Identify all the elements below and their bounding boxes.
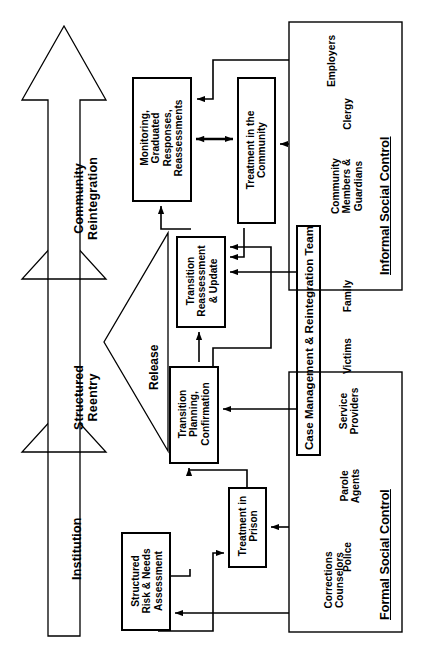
actor-label-service-providers: Service Providers xyxy=(338,380,361,442)
diagram-canvas: Treatment in the Community (double arrow… xyxy=(0,0,422,653)
actor-label-victims: Victims xyxy=(342,332,353,380)
link-treatmentprison-to-planning xyxy=(189,468,247,487)
actor-label-community-members-guardians: Community Members & Guardians xyxy=(330,145,364,227)
actor-label-family: Family xyxy=(342,274,353,318)
stage-label-structured-reentry: Structured Reentry xyxy=(72,365,100,430)
release-arrow xyxy=(104,233,168,451)
stage-arrow-community-reintegration xyxy=(22,26,106,279)
box-label-transition-reassessment-update: Transition Reassessment & Update xyxy=(185,242,219,320)
box-label-treatment-in-prison: Treatment in Prison xyxy=(237,492,260,560)
box-label-transition-planning-confirmation: Transition Planning, Confirmation xyxy=(177,372,211,456)
actor-label-police: Police xyxy=(342,534,353,580)
box-label-structured-risk-needs-assessment: Structured Risk & Needs Assessment xyxy=(130,539,164,623)
release-label: Release xyxy=(148,345,161,390)
diagram-vector-layer: Treatment in the Community (double arrow… xyxy=(0,0,422,653)
panel-label-informal-social-control: Informal Social Control xyxy=(378,136,392,275)
actor-label-employers: Employers xyxy=(326,30,337,92)
link-treatmentcommunity-to-reassessment xyxy=(230,228,244,257)
box-label-treatment-in-the-community: Treatment in the Community xyxy=(245,84,268,216)
link-reassessment-to-monitoring xyxy=(161,206,191,229)
link-riskneeds-to-planning xyxy=(170,569,190,576)
stage-label-community-reintegration: Community Reintegration xyxy=(72,157,100,240)
actor-label-parole-agents: Parole Agents xyxy=(339,459,362,513)
stage-label-institution: Institution xyxy=(70,517,84,580)
panel-label-formal-social-control: Formal Social Control xyxy=(378,489,392,620)
actor-label-clergy: Clergy xyxy=(342,92,353,136)
box-label-monitoring: Monitoring, Graduated Responses, Reasses… xyxy=(139,84,185,192)
team-box-label: Case Management & Reintegration Team xyxy=(302,228,315,450)
